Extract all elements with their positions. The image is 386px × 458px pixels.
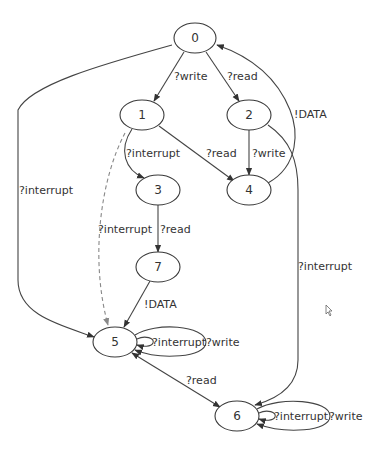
state-node-6-label: 6 [233,409,241,423]
state-node-1: 1 [120,100,164,130]
edge-2-4: ?write [249,130,286,175]
edge-label-0-2: ?read [227,70,258,83]
state-node-2-label: 2 [245,108,253,122]
edge-7-5: !DATA [124,281,177,327]
edge-label-0-5: ?interrupt [19,184,74,197]
edge-label-5-5-interrupt: ?interrupt [152,336,207,349]
edge-label-2-4: ?write [252,147,286,160]
edge-label-6-6-interrupt: ?interrupt [274,410,329,423]
state-node-7: 7 [136,252,180,282]
state-node-3: 3 [136,175,180,205]
state-node-3-label: 3 [154,183,162,197]
state-node-2: 2 [227,100,271,130]
state-node-1-label: 1 [138,108,146,122]
state-node-4-label: 4 [245,183,253,197]
state-node-4: 4 [227,175,271,205]
edge-5-6: ?read [132,353,220,407]
edge-5-5-loop-inner: ?interrupt ?write [137,336,240,349]
edge-0-2: ?read [206,52,258,101]
edge-label-4-0: !DATA [294,108,327,121]
state-node-0: 0 [174,23,216,53]
state-node-7-label: 7 [154,260,162,274]
edge-label-2-6: ?interrupt [298,260,353,273]
edge-3-7: ?read [158,205,191,252]
edge-label-1-4: ?read [206,147,237,160]
edge-label-0-1: ?write [174,70,208,83]
edge-0-1: ?write [154,52,208,101]
edge-label-6-6-write: ?write [329,410,363,423]
mouse-cursor-icon [326,305,332,316]
state-diagram: ?write ?read !DATA ?interrupt ?interrupt… [0,0,386,458]
state-node-6: 6 [215,401,259,431]
edge-label-1-3: ?interrupt [126,147,181,160]
state-node-5-label: 5 [111,335,119,349]
edge-label-5-6: ?read [186,374,217,387]
edge-6-6-loop-inner: ?interrupt ?write [259,410,363,423]
edge-label-5-5-write: ?write [206,336,240,349]
state-node-0-label: 0 [191,31,199,45]
state-node-5: 5 [93,327,137,357]
edge-label-3-5: ?interrupt [98,223,153,236]
edge-2-6: ?interrupt [255,125,353,405]
edge-label-7-5: !DATA [144,298,177,311]
edge-label-3-7: ?read [160,223,191,236]
